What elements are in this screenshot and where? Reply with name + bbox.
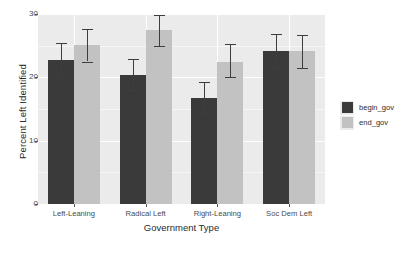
error-bar-cap-lower-end_gov-3 xyxy=(297,68,308,69)
bar-begin_gov-0 xyxy=(48,60,74,204)
legend-key-end_gov xyxy=(340,116,354,130)
error-bar-line-begin_gov-1 xyxy=(133,59,134,90)
x-tick-mark-3 xyxy=(289,204,290,207)
error-bar-cap-upper-begin_gov-2 xyxy=(199,82,210,83)
bar-end_gov-3 xyxy=(289,51,315,204)
bar-end_gov-2 xyxy=(217,62,243,205)
x-tick-mark-0 xyxy=(74,204,75,207)
error-bar-line-begin_gov-2 xyxy=(204,82,205,113)
error-bar-line-end_gov-0 xyxy=(87,29,88,62)
error-bar-cap-upper-begin_gov-1 xyxy=(128,59,139,60)
legend-item-begin_gov[interactable]: begin_gov xyxy=(340,100,410,115)
error-bar-line-end_gov-2 xyxy=(230,44,231,76)
legend-swatch-end_gov xyxy=(342,117,353,128)
legend-label-end_gov: end_gov xyxy=(359,118,388,127)
error-bar-cap-upper-end_gov-1 xyxy=(154,15,165,16)
error-bar-line-end_gov-1 xyxy=(159,15,160,46)
error-bar-cap-upper-end_gov-0 xyxy=(82,29,93,30)
error-bar-cap-lower-begin_gov-1 xyxy=(128,90,139,91)
x-tick-mark-1 xyxy=(146,204,147,207)
x-tick-label-right-leaning: Right-Leaning xyxy=(182,209,254,218)
plot-panel xyxy=(38,14,325,204)
legend-label-begin_gov: begin_gov xyxy=(359,103,394,112)
error-bar-cap-lower-end_gov-2 xyxy=(225,77,236,78)
error-bar-cap-upper-end_gov-2 xyxy=(225,44,236,45)
legend-item-end_gov[interactable]: end_gov xyxy=(340,115,410,130)
legend-swatch-begin_gov xyxy=(342,102,353,113)
bar-begin_gov-3 xyxy=(263,51,289,204)
error-bar-cap-upper-begin_gov-0 xyxy=(56,43,67,44)
error-bar-cap-lower-end_gov-1 xyxy=(154,46,165,47)
error-bar-cap-lower-begin_gov-3 xyxy=(271,68,282,69)
x-axis: Government Type Left-LeaningRadical Left… xyxy=(38,204,325,254)
y-axis: 0102030 xyxy=(14,0,38,254)
error-bar-cap-lower-begin_gov-2 xyxy=(199,113,210,114)
legend: begin_govend_gov xyxy=(340,100,410,130)
legend-key-begin_gov xyxy=(340,101,354,115)
x-tick-label-soc-dem-left: Soc Dem Left xyxy=(253,209,325,218)
error-bar-line-begin_gov-0 xyxy=(61,43,62,75)
bar-end_gov-1 xyxy=(146,30,172,204)
error-bar-line-begin_gov-3 xyxy=(276,34,277,68)
bar-end_gov-0 xyxy=(74,45,100,204)
error-bar-cap-lower-begin_gov-0 xyxy=(56,75,67,76)
error-bar-cap-upper-begin_gov-3 xyxy=(271,34,282,35)
error-bar-line-end_gov-3 xyxy=(302,35,303,68)
x-axis-title: Government Type xyxy=(38,222,325,233)
bar-chart: Percent Left Identified 0102030 Governme… xyxy=(0,0,411,254)
error-bar-cap-lower-end_gov-0 xyxy=(82,62,93,63)
gridline-horizontal-major xyxy=(38,14,325,15)
x-tick-mark-2 xyxy=(217,204,218,207)
x-tick-label-left-leaning: Left-Leaning xyxy=(38,209,110,218)
bar-begin_gov-1 xyxy=(120,75,146,204)
error-bar-cap-upper-end_gov-3 xyxy=(297,35,308,36)
x-tick-label-radical-left: Radical Left xyxy=(110,209,182,218)
